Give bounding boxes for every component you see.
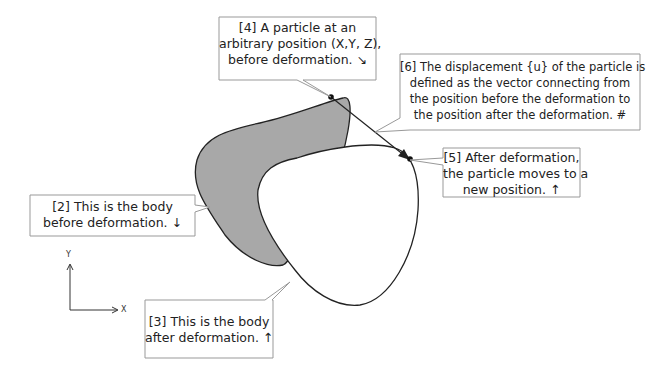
callout-3-line: after deformation. ↑ xyxy=(145,330,273,346)
coordinate-axes xyxy=(67,264,118,313)
callout-6-line: defined as the vector connecting from xyxy=(400,75,640,91)
callout-6-text: [6] The displacement {u} of the particle… xyxy=(400,59,640,123)
callout-4-line: before deformation. ↘ xyxy=(219,52,376,68)
callout-2-line: before deformation. ↓ xyxy=(30,215,195,231)
callout-5-line: new position. ↑ xyxy=(443,182,580,198)
callout-4-line: [4] A particle at an xyxy=(219,20,376,36)
callout-5-text: [5] After deformation, the particle move… xyxy=(443,150,580,198)
callout-6-line: the position before the deformation to xyxy=(400,91,640,107)
callout-2-line: [2] This is the body xyxy=(30,199,195,215)
body-after-deformation xyxy=(258,145,419,305)
callout-4-text: [4] A particle at an arbitrary position … xyxy=(219,20,376,68)
callout-6-line: the position after the deformation. # xyxy=(400,107,640,123)
callout-5-line: [5] After deformation, xyxy=(443,150,580,166)
x-axis-label: X xyxy=(121,305,126,314)
callout-3-line: [3] This is the body xyxy=(145,314,273,330)
callout-3-text: [3] This is the body after deformation. … xyxy=(145,314,273,346)
callout-5-line: the particle moves to a xyxy=(443,166,580,182)
callout-4-line: arbitrary position (X,Y, Z), xyxy=(219,36,376,52)
particle-after xyxy=(407,156,413,162)
callout-6-line: [6] The displacement {u} of the particle… xyxy=(400,59,640,75)
y-axis-label: Y xyxy=(66,250,71,259)
callout-2-text: [2] This is the body before deformation.… xyxy=(30,199,195,231)
